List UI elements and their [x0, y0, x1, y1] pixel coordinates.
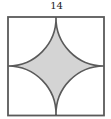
geometry-figure	[0, 0, 111, 119]
shaded-region	[8, 17, 104, 115]
